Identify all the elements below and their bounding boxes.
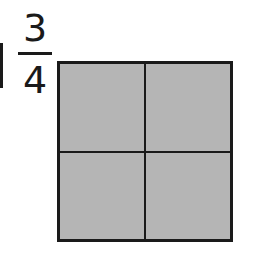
left-edge-bar <box>0 43 3 88</box>
grid-cell-top-right <box>145 64 230 152</box>
fraction-numerator: 3 <box>18 8 52 48</box>
fraction-denominator: 4 <box>18 60 52 100</box>
fraction-bar <box>18 52 52 55</box>
grid-cell-bottom-left <box>60 152 145 240</box>
grid-cell-top-left <box>60 64 145 152</box>
fraction-label: 3 4 <box>18 8 52 100</box>
square-grid-2x2 <box>57 61 233 242</box>
grid-cell-bottom-right <box>145 152 230 240</box>
